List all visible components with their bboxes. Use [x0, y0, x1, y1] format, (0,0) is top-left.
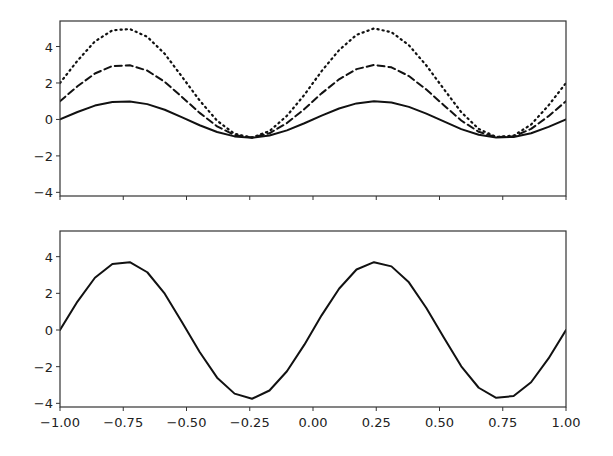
y-tick-label: 0 [45, 112, 53, 127]
y-tick-label: −2 [34, 360, 53, 375]
x-tick-label: 0.00 [299, 415, 328, 430]
y-tick-label: −4 [34, 396, 53, 411]
x-tick-label: 0.75 [488, 415, 517, 430]
x-tick-label: −1.00 [40, 415, 80, 430]
x-tick-label: 0.25 [362, 415, 391, 430]
y-tick-label: 0 [45, 323, 53, 338]
x-tick-label: 0.50 [425, 415, 454, 430]
x-tick-label: 1.00 [552, 415, 581, 430]
x-tick-label: −0.75 [103, 415, 143, 430]
y-tick-label: 4 [45, 250, 53, 265]
x-tick-label: −0.25 [230, 415, 270, 430]
figure: −4−2024 −1.00−0.75−0.50−0.250.000.250.50… [0, 0, 613, 456]
y-tick-label: 2 [45, 76, 53, 91]
figure-background [0, 0, 613, 456]
x-tick-label: −0.50 [167, 415, 207, 430]
y-tick-label: 2 [45, 286, 53, 301]
y-tick-label: −4 [34, 185, 53, 200]
y-tick-label: −2 [34, 149, 53, 164]
y-tick-label: 4 [45, 40, 53, 55]
